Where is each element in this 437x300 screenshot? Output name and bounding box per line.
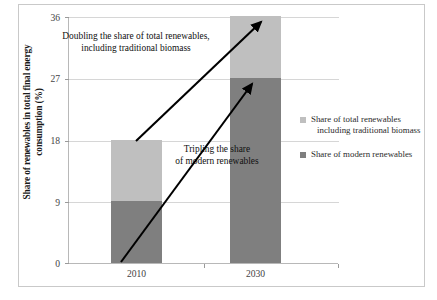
y-tick-label-18: 18: [26, 135, 60, 146]
y-tick-label-36: 36: [26, 12, 60, 23]
y-tick-label-9: 9: [26, 197, 60, 208]
y-tick-label-27: 27: [26, 73, 60, 84]
bar-segment-2010-modern-renewables[interactable]: [111, 201, 162, 263]
y-tick-mark-27: [65, 79, 69, 80]
gridline-9: [69, 202, 339, 203]
gridline-27: [69, 79, 339, 80]
x-tick-mark-end: [338, 264, 339, 268]
y-axis-title-line-1: Share of renewables in total final energ…: [22, 45, 32, 200]
y-tick-mark-0: [65, 263, 69, 264]
annotation-doubling-line-2: including traditional biomass: [81, 43, 190, 53]
legend-label-total-renewables-line-2: including traditional biomass: [311, 125, 432, 136]
x-tick-mark-mid: [204, 264, 205, 268]
annotation-tripling-line-2: of modern renewables: [175, 156, 258, 166]
y-tick-mark-18: [65, 141, 69, 142]
annotation-tripling-line-1: Tripling the share: [184, 144, 250, 154]
chart-figure: Share of renewables in total final energ…: [0, 0, 437, 300]
legend-swatch-modern-renewables: [300, 152, 306, 158]
annotation-doubling-line-1: Doubling the share of total renewables,: [62, 31, 209, 41]
bar-segment-2030-modern-renewables[interactable]: [230, 78, 281, 263]
legend-swatch-total-renewables: [300, 117, 306, 123]
legend-entry-modern-renewables[interactable]: Share of modern renewables: [300, 149, 432, 160]
legend-label-modern-renewables: Share of modern renewables: [311, 149, 432, 160]
annotation-doubling: Doubling the share of total renewables, …: [32, 30, 240, 54]
gridline-18: [69, 141, 339, 142]
y-tick-mark-9: [65, 202, 69, 203]
annotation-tripling: Tripling the share of modern renewables: [155, 143, 279, 167]
y-tick-label-0: 0: [26, 258, 60, 269]
y-tick-mark-36: [65, 17, 69, 18]
x-tick-label-2030: 2030: [221, 268, 291, 279]
chart-legend: Share of total renewables including trad…: [300, 114, 432, 170]
legend-label-total-renewables-line-1: Share of total renewables: [311, 114, 432, 125]
gridline-36: [69, 17, 339, 18]
legend-entry-total-renewables[interactable]: Share of total renewables including trad…: [300, 114, 432, 136]
x-tick-label-2010: 2010: [102, 268, 172, 279]
